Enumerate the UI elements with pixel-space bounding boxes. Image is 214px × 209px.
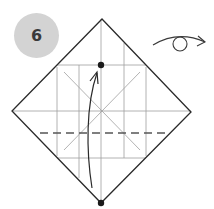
fold-arrow-icon: [88, 72, 98, 188]
crease-lines: [12, 19, 191, 203]
reference-dot-bottom: [98, 200, 104, 206]
turn-over-icon: [153, 36, 205, 51]
reference-dot-top: [98, 62, 104, 68]
origami-diagram: [0, 0, 214, 209]
